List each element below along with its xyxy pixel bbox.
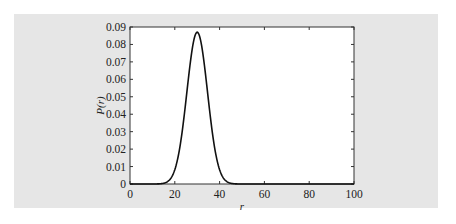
x-axis-label: r [240, 200, 245, 212]
y-tick-label: 0.04 [106, 108, 126, 120]
x-tick-label: 40 [214, 188, 226, 200]
y-tick-label: 0.03 [106, 126, 126, 138]
y-tick-label: 0.01 [106, 161, 126, 173]
x-tick-label: 20 [169, 188, 181, 200]
plot-area [130, 27, 354, 184]
y-tick-label: 0.06 [106, 73, 126, 85]
y-tick-label: 0.08 [106, 38, 126, 50]
x-tick-label: 60 [259, 188, 271, 200]
y-tick-label: 0.05 [106, 91, 126, 103]
x-tick-label: 80 [303, 188, 315, 200]
x-tick-label: 100 [345, 188, 363, 200]
x-tick-label: 0 [127, 188, 133, 200]
y-tick-label: 0.07 [106, 56, 126, 68]
y-axis-label: P(r) [94, 96, 107, 116]
y-tick-label: 0.09 [106, 21, 126, 33]
probability-chart: 00.010.020.030.040.050.060.070.080.09 02… [0, 0, 456, 224]
y-tick-label: 0.02 [106, 143, 126, 155]
y-tick-label: 0 [120, 178, 126, 190]
